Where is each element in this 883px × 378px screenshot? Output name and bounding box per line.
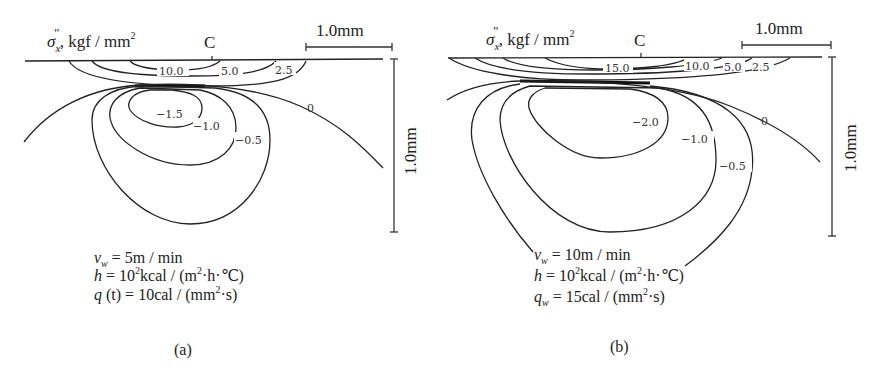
panel-a-title: σx″, kgf / mm2 bbox=[47, 25, 136, 54]
contour-label-2_5-a: 2.5 bbox=[275, 64, 293, 77]
param-q-a: q (t) = 10cal / (mm2·s) bbox=[94, 284, 237, 304]
contour-label-0-b: 0 bbox=[761, 115, 768, 128]
contour-label-10-a: 10.0 bbox=[159, 65, 184, 78]
contour-label-5-b: 5.0 bbox=[724, 61, 742, 74]
scale-bar-vertical-a bbox=[390, 59, 398, 232]
surface-line-a bbox=[25, 59, 383, 61]
contour-label-0-a: 0 bbox=[307, 102, 314, 115]
panel-a-caption: (a) bbox=[174, 341, 192, 359]
scale-horizontal-label-a: 1.0mm bbox=[316, 21, 364, 40]
contour-label-15-b: 15.0 bbox=[605, 62, 630, 75]
contour-label-minus1_0-a: −1.0 bbox=[193, 120, 220, 133]
param-vw-b: vw = 10m / min bbox=[534, 246, 631, 266]
panel-a: σx″, kgf / mm2 C 1.0mm 1.0mm bbox=[24, 21, 420, 359]
panel-b-parameters: vw = 10m / min h = 102kcal / (m2·h·℃) qw… bbox=[534, 246, 684, 308]
param-h-a: h = 102kcal / (m2·h·℃) bbox=[94, 265, 244, 285]
contour-label-minus1_0-b: −1.0 bbox=[681, 133, 708, 146]
scale-vertical-label-a: 1.0mm bbox=[401, 127, 420, 175]
param-h-b: h = 102kcal / (m2·h·℃) bbox=[534, 265, 684, 285]
panel-b-title: σx″, kgf / mm2 bbox=[486, 23, 575, 52]
contour-label-minus0_5-a: −0.5 bbox=[235, 134, 262, 147]
scale-horizontal-label-b: 1.0mm bbox=[755, 19, 803, 38]
contour-minus0_5-b bbox=[471, 84, 752, 266]
surface-line-b bbox=[448, 57, 822, 58]
contour-minus0_5-a bbox=[92, 86, 270, 224]
contour-label-10-b: 10.0 bbox=[685, 60, 710, 73]
scale-bar-horizontal-b bbox=[742, 41, 831, 49]
contour-figure: σx″, kgf / mm2 C 1.0mm 1.0mm bbox=[0, 0, 883, 378]
contour-label-minus0_5-b: −0.5 bbox=[719, 160, 746, 173]
contour-label-minus2_0-b: −2.0 bbox=[632, 116, 659, 129]
contour-label-minus1_5-a: −1.5 bbox=[156, 108, 183, 121]
scale-bar-horizontal-a bbox=[306, 43, 392, 51]
point-c-label-a: C bbox=[204, 33, 215, 52]
scale-vertical-label-b: 1.0mm bbox=[841, 124, 860, 172]
panel-a-parameters: vw = 5m / min h = 102kcal / (m2·h·℃) q (… bbox=[94, 249, 244, 304]
panel-b: σx″, kgf / mm2 C 1.0mm 1.0mm 1 bbox=[447, 19, 860, 356]
contour-label-5-a: 5.0 bbox=[221, 65, 239, 78]
panel-b-caption: (b) bbox=[610, 338, 629, 356]
param-q-b: qw = 15cal / (mm2·s) bbox=[534, 286, 665, 308]
scale-bar-vertical-b bbox=[828, 57, 836, 236]
contour-minus1_0-b bbox=[500, 86, 716, 232]
point-c-label-b: C bbox=[634, 31, 645, 50]
contour-label-2_5-b: 2.5 bbox=[752, 61, 770, 74]
